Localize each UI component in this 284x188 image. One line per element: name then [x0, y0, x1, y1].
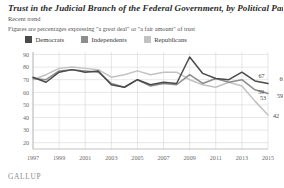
data-label-republicans-2014: 53 — [260, 94, 266, 101]
legend-label-republicans: Republicans — [154, 36, 187, 43]
data-label-democrats-2015: 66 — [280, 75, 284, 82]
legend-label-independents: Independents — [92, 36, 127, 43]
x-axis-tick-label: 1999 — [53, 155, 65, 161]
x-axis-tick-label: 2003 — [105, 155, 117, 161]
legend-item-republicans: Republicans — [144, 36, 187, 43]
page-title: Trust in the Judicial Branch of the Fede… — [8, 3, 278, 14]
y-axis-tick-label: 30 — [23, 127, 29, 133]
legend-swatch-independents — [81, 36, 88, 43]
y-axis-tick-label: 40 — [23, 115, 29, 121]
x-axis-tick-label: 2007 — [157, 155, 169, 161]
y-axis-tick-label: 90 — [23, 52, 29, 58]
x-axis-tick-label: 2013 — [236, 155, 248, 161]
series-layer — [33, 57, 268, 115]
x-axis-labels: 1997199920012003200520072009201120132015 — [27, 155, 274, 161]
series-line-independents — [33, 70, 268, 94]
chart-legend: Democrats Independents Republicans — [25, 36, 204, 43]
gallup-chart-page: Trust in the Judicial Branch of the Fede… — [0, 0, 283, 188]
y-axis-tick-label: 20 — [23, 140, 29, 146]
x-axis-tick-label: 2005 — [131, 155, 143, 161]
x-axis-tick-label: 2001 — [79, 155, 91, 161]
series-line-republicans — [33, 67, 268, 115]
legend-label-democrats: Democrats — [36, 36, 65, 43]
y-axis-tick-label: 50 — [23, 102, 29, 108]
data-label-democrats-2014: 67 — [258, 72, 264, 79]
y-axis-tick-label: 60 — [23, 90, 29, 96]
data-label-republicans-2015: 42 — [273, 112, 279, 119]
legend-swatch-democrats — [25, 36, 32, 43]
grid-layer — [33, 52, 268, 149]
chart-plot-area: 9080706050403020 19971999200120032005200… — [0, 48, 283, 168]
data-labels: 676659595342 — [258, 72, 283, 119]
gallup-logo: GALLUP — [8, 172, 41, 181]
y-axis-tick-label: 70 — [23, 77, 29, 83]
legend-item-independents: Independents — [81, 36, 127, 43]
line-chart: 9080706050403020 19971999200120032005200… — [0, 48, 283, 168]
y-axis-tick-label: 80 — [23, 64, 29, 70]
x-axis-tick-label: 1997 — [27, 155, 39, 161]
x-axis-tick-label: 2011 — [210, 155, 222, 161]
legend-item-democrats: Democrats — [25, 36, 64, 43]
legend-swatch-republicans — [144, 36, 151, 43]
x-axis-tick-label: 2015 — [262, 155, 274, 161]
data-label-independents-2015: 59 — [277, 92, 283, 99]
chart-note: Figures are percentages expressing "a gr… — [8, 25, 195, 33]
y-axis-labels: 9080706050403020 — [23, 52, 29, 146]
chart-subtitle: Recent trend — [8, 15, 40, 23]
x-axis-tick-label: 2009 — [184, 155, 196, 161]
